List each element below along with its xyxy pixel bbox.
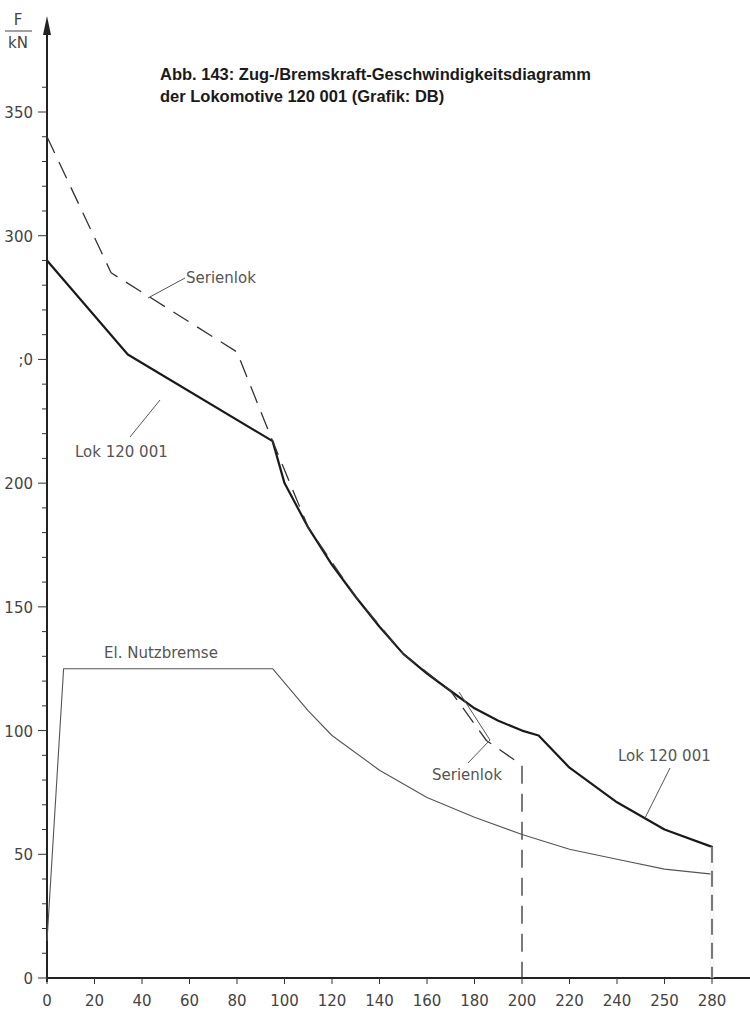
figure-caption: Abb. 143: Zug-/Bremskraft-Geschwindigkei… (160, 63, 591, 107)
x-tick-label: 40 (132, 992, 151, 1010)
x-tick-label: 240 (603, 992, 632, 1010)
series-lok-120-001 (47, 261, 712, 979)
y-tick-label: 200 (4, 475, 33, 493)
x-tick-label: 0 (42, 992, 52, 1010)
label-lok-bottom: Lok 120 001 (618, 747, 711, 765)
y-tick-label: 100 (4, 723, 33, 741)
y-tick-label: ;0 (18, 351, 33, 369)
x-tick-label: 80 (227, 992, 246, 1010)
y-tick-label: 300 (4, 228, 33, 246)
x-tick-label: 220 (555, 992, 584, 1010)
label-nutzbremse: El. Nutzbremse (104, 644, 218, 662)
label-lok-top: Lok 120 001 (75, 443, 168, 461)
x-tick-label: 20 (85, 992, 104, 1010)
series-layer (47, 137, 712, 978)
y-tick-label: 350 (4, 104, 33, 122)
y-axis-arrow-icon (43, 16, 51, 35)
annotation-labels: Serienlok Lok 120 001 El. Nutzbremse Ser… (75, 269, 711, 784)
y-tick-label: 0 (23, 970, 33, 988)
y-tick-label: 50 (14, 846, 33, 864)
caption-line-2: der Lokomotive 120 001 (Grafik: DB) (160, 85, 591, 107)
label-serienlok-bottom: Serienlok (432, 766, 502, 784)
x-tick-label: 180 (460, 992, 489, 1010)
x-tick-label: 140 (365, 992, 394, 1010)
label-serienlok-top: Serienlok (186, 269, 256, 287)
series-el-nutzbremse (47, 669, 712, 978)
y-tick-label: 150 (4, 599, 33, 617)
caption-line-1: Abb. 143: Zug-/Bremskraft-Geschwindigkei… (160, 63, 591, 85)
x-tick-label: 200 (508, 992, 537, 1010)
axes: 050100150200;030035002040608010012014016… (4, 16, 750, 1010)
series-serienlok (47, 137, 522, 978)
x-tick-label: 160 (413, 992, 442, 1010)
y-unit-denominator: kN (8, 34, 28, 52)
force-speed-chart: 050100150200;030035002040608010012014016… (0, 0, 750, 1029)
y-axis-unit: F kN (5, 11, 32, 52)
x-tick-label: 280 (698, 992, 727, 1010)
annotation-leaders (130, 278, 670, 818)
x-tick-label: 250 (650, 992, 679, 1010)
x-tick-label: 60 (180, 992, 199, 1010)
x-tick-label: 120 (318, 992, 347, 1010)
x-tick-label: 100 (270, 992, 299, 1010)
y-unit-numerator: F (14, 11, 23, 29)
